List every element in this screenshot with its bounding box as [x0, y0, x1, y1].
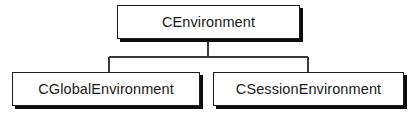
class-box-cglobalenvironment[interactable]: CGlobalEnvironment	[12, 72, 200, 106]
class-box-csessionenvironment[interactable]: CSessionEnvironment	[213, 72, 404, 106]
class-diagram: CEnvironment CGlobalEnvironment CSession…	[0, 0, 416, 119]
class-label-cglobalenvironment: CGlobalEnvironment	[38, 82, 174, 97]
class-box-cenvironment[interactable]: CEnvironment	[117, 5, 300, 39]
class-label-cenvironment: CEnvironment	[162, 15, 255, 30]
class-label-csessionenvironment: CSessionEnvironment	[236, 82, 381, 97]
